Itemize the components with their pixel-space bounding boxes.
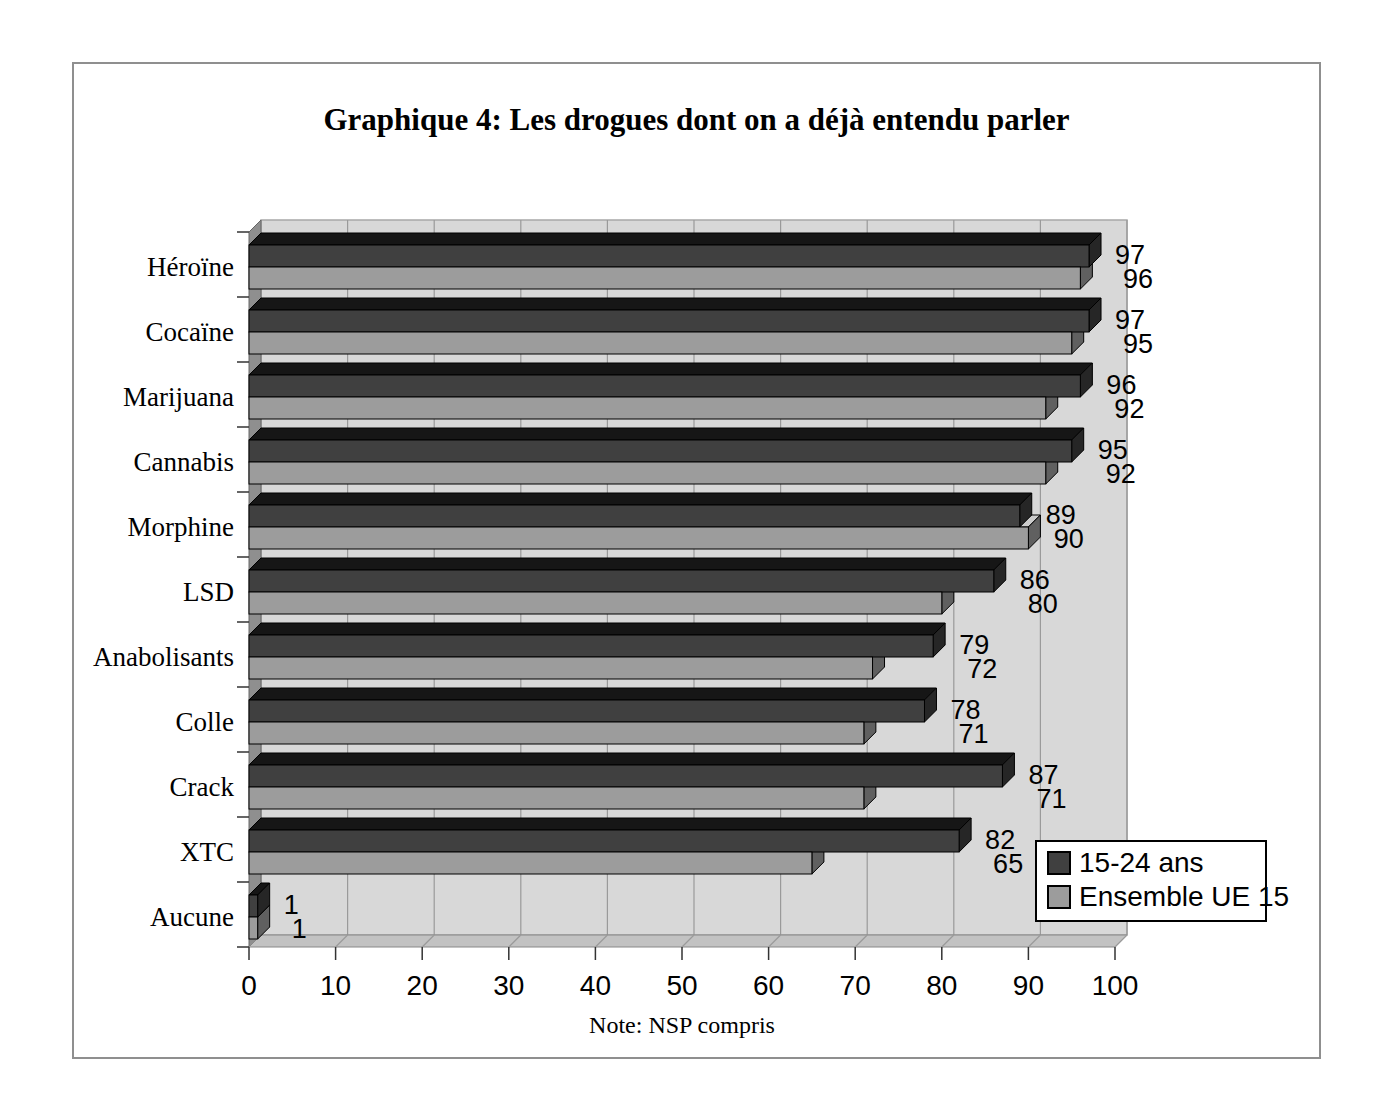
category-label-crack: Crack xyxy=(170,772,235,802)
bar-top-15-24-ans-lsd xyxy=(249,558,1006,570)
bar-15-24-ans-xtc xyxy=(249,830,959,852)
bar-ensemble-ue-15-colle xyxy=(249,722,864,744)
bar-15-24-ans-anabolisants xyxy=(249,635,933,657)
bar-top-15-24-ans-cocaine xyxy=(249,298,1101,310)
bar-top-15-24-ans-heroine xyxy=(249,233,1101,245)
bar-top-15-24-ans-anabolisants xyxy=(249,623,945,635)
chart-legend: 15-24 ansEnsemble UE 15 xyxy=(1035,840,1267,922)
data-label-ensemble-ue-15-heroine: 96 xyxy=(1123,264,1153,294)
bar-top-15-24-ans-marijuana xyxy=(249,363,1092,375)
chart-frame: Graphique 4: Les drogues dont on a déjà … xyxy=(72,62,1321,1059)
bar-ensemble-ue-15-lsd xyxy=(249,592,942,614)
bar-top-15-24-ans-crack xyxy=(249,753,1014,765)
legend-swatch-icon xyxy=(1047,885,1071,909)
bar-ensemble-ue-15-morphine xyxy=(249,527,1028,549)
bar-ensemble-ue-15-crack xyxy=(249,787,864,809)
x-tick-label: 0 xyxy=(241,970,257,1001)
chart-note: Note: NSP compris xyxy=(249,1012,1115,1039)
category-label-cannabis: Cannabis xyxy=(134,447,235,477)
bar-ensemble-ue-15-marijuana xyxy=(249,397,1046,419)
data-label-ensemble-ue-15-anabolisants: 72 xyxy=(967,654,997,684)
legend-label: 15-24 ans xyxy=(1079,847,1204,879)
data-label-ensemble-ue-15-crack: 71 xyxy=(1036,784,1066,814)
x-tick-label: 60 xyxy=(753,970,784,1001)
data-label-ensemble-ue-15-cannabis: 92 xyxy=(1106,459,1136,489)
bar-ensemble-ue-15-aucune xyxy=(249,917,258,939)
data-label-ensemble-ue-15-colle: 71 xyxy=(958,719,988,749)
legend-item-0: 15-24 ans xyxy=(1047,848,1255,878)
x-tick-label: 30 xyxy=(493,970,524,1001)
x-tick-label: 40 xyxy=(580,970,611,1001)
data-label-ensemble-ue-15-xtc: 65 xyxy=(993,849,1023,879)
category-label-lsd: LSD xyxy=(183,577,234,607)
data-label-ensemble-ue-15-cocaine: 95 xyxy=(1123,329,1153,359)
category-label-xtc: XTC xyxy=(180,837,234,867)
data-label-ensemble-ue-15-marijuana: 92 xyxy=(1114,394,1144,424)
bar-15-24-ans-aucune xyxy=(249,895,258,917)
data-label-ensemble-ue-15-lsd: 80 xyxy=(1028,589,1058,619)
bar-ensemble-ue-15-cannabis xyxy=(249,462,1046,484)
x-tick-label: 20 xyxy=(407,970,438,1001)
x-tick-label: 50 xyxy=(666,970,697,1001)
data-label-ensemble-ue-15-aucune: 1 xyxy=(292,914,307,944)
bar-15-24-ans-marijuana xyxy=(249,375,1080,397)
x-tick-label: 80 xyxy=(926,970,957,1001)
category-label-aucune: Aucune xyxy=(150,902,234,932)
bar-top-15-24-ans-cannabis xyxy=(249,428,1084,440)
page: Graphique 4: Les drogues dont on a déjà … xyxy=(0,0,1398,1118)
x-tick-label: 10 xyxy=(320,970,351,1001)
x-tick-label: 70 xyxy=(840,970,871,1001)
bar-15-24-ans-cocaine xyxy=(249,310,1089,332)
category-label-anabolisants: Anabolisants xyxy=(93,642,234,672)
bar-15-24-ans-lsd xyxy=(249,570,994,592)
data-label-ensemble-ue-15-morphine: 90 xyxy=(1054,524,1084,554)
bar-15-24-ans-cannabis xyxy=(249,440,1072,462)
bar-15-24-ans-crack xyxy=(249,765,1002,787)
category-label-heroine: Héroïne xyxy=(147,252,234,282)
category-label-colle: Colle xyxy=(176,707,235,737)
bar-ensemble-ue-15-xtc xyxy=(249,852,812,874)
x-tick-label: 100 xyxy=(1092,970,1139,1001)
bar-15-24-ans-morphine xyxy=(249,505,1020,527)
category-label-morphine: Morphine xyxy=(128,512,235,542)
category-label-marijuana: Marijuana xyxy=(123,382,234,412)
legend-label: Ensemble UE 15 xyxy=(1079,881,1289,913)
bar-ensemble-ue-15-heroine xyxy=(249,267,1080,289)
bar-ensemble-ue-15-cocaine xyxy=(249,332,1072,354)
bar-ensemble-ue-15-anabolisants xyxy=(249,657,873,679)
bar-top-15-24-ans-morphine xyxy=(249,493,1032,505)
category-label-cocaine: Cocaïne xyxy=(146,317,234,347)
x-tick-label: 90 xyxy=(1013,970,1044,1001)
legend-item-1: Ensemble UE 15 xyxy=(1047,882,1255,912)
bar-top-15-24-ans-xtc xyxy=(249,818,971,830)
bar-top-15-24-ans-colle xyxy=(249,688,936,700)
legend-swatch-icon xyxy=(1047,851,1071,875)
bar-15-24-ans-colle xyxy=(249,700,924,722)
bar-15-24-ans-heroine xyxy=(249,245,1089,267)
